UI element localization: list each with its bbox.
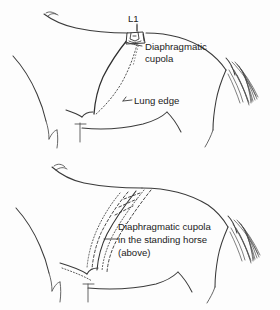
lower-foreleg-line <box>52 282 60 291</box>
lower-ventral-line <box>88 272 178 289</box>
lower-hindquarter-contour <box>215 227 228 287</box>
l1-vertebra-marker <box>126 25 145 44</box>
upper-foreleg-back <box>57 130 58 148</box>
lower-horse-panel: Diaphragmatic cupola in the standing hor… <box>16 164 260 303</box>
upper-belly-line <box>66 110 82 117</box>
lower-tail-hair-group <box>230 220 260 263</box>
lower-mane-tuft <box>54 164 65 167</box>
upper-hindquarter-contour <box>213 70 226 130</box>
lung-edge-leader-line <box>123 100 132 101</box>
upper-hindleg-front <box>167 112 181 132</box>
diaphragmatic-cupola-label-line2: cupola <box>145 53 174 64</box>
lower-foreleg-back <box>60 282 61 302</box>
lower-hindleg-front <box>178 272 192 292</box>
upper-topline <box>44 14 128 33</box>
l1-label: L1 <box>128 13 139 24</box>
upper-belly-drop <box>82 112 93 117</box>
upper-ventral-line <box>82 112 167 129</box>
lower-mane-tuft-2 <box>56 168 67 170</box>
standing-horse-caption-line3: (above) <box>118 247 151 258</box>
lower-belly-dotted <box>62 268 92 281</box>
lower-shoulder-crease <box>49 273 52 291</box>
anatomy-figure-svg: L1 Diaphragmatic cupola Lung edge <box>0 0 280 310</box>
upper-shoulder-crease <box>46 121 49 139</box>
lower-topline <box>52 167 142 188</box>
upper-hindquarter-crease <box>205 130 213 147</box>
standing-horse-caption-line1: Diaphragmatic cupola <box>118 221 211 232</box>
diaphragmatic-cupola-label-line1: Diaphragmatic <box>145 41 207 52</box>
upper-mane-tuft-2 <box>48 14 58 16</box>
lung-edge-curve <box>95 41 138 115</box>
cupola-band-line-1 <box>87 193 120 268</box>
lung-edge-label: Lung edge <box>134 95 179 106</box>
standing-horse-caption-line2: in the standing horse <box>118 234 207 245</box>
diaphragmatic-cupola-curve-upper <box>94 39 128 114</box>
upper-foreleg-line <box>49 130 57 139</box>
lower-hindquarter-crease <box>207 287 215 303</box>
upper-tail-hair-group <box>228 62 258 105</box>
lower-shoulder-contour <box>16 208 49 273</box>
anatomy-figure: L1 Diaphragmatic cupola Lung edge <box>0 0 280 310</box>
lower-belly-drop <box>87 268 98 274</box>
upper-horse-panel: L1 Diaphragmatic cupola Lung edge <box>13 12 258 148</box>
upper-shoulder-contour <box>13 56 46 121</box>
